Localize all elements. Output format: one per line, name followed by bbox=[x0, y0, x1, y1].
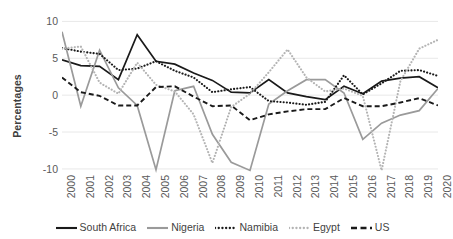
legend-item-namibia[interactable]: Namibia bbox=[215, 221, 278, 233]
y-axis-title: Percentages bbox=[11, 58, 23, 154]
y-axis-tick-label: 0 bbox=[28, 90, 58, 100]
legend-key-swatch bbox=[56, 223, 77, 232]
plot-svg bbox=[62, 14, 438, 180]
legend-item-label: Egypt bbox=[313, 221, 340, 233]
x-axis-tick-label: 2015 bbox=[348, 175, 359, 219]
x-axis-tick-label: 2006 bbox=[179, 175, 190, 219]
series-line-namibia bbox=[62, 48, 438, 105]
x-axis-tick-label: 2013 bbox=[310, 175, 321, 219]
legend-item-egypt[interactable]: Egypt bbox=[289, 221, 340, 233]
x-axis-tick-label: 2002 bbox=[104, 175, 115, 219]
chart-legend: South AfricaNigeriaNamibiaEgyptUS bbox=[0, 219, 445, 235]
x-axis-tick-label: 2019 bbox=[423, 175, 434, 219]
y-axis-tick-label: 5 bbox=[28, 53, 58, 63]
x-axis-tick-label: 2011 bbox=[273, 175, 284, 219]
x-axis-tick-label: 2012 bbox=[292, 175, 303, 219]
x-axis-tick-label: 2003 bbox=[122, 175, 133, 219]
legend-key-swatch bbox=[215, 223, 236, 232]
x-axis-tick-label: 2004 bbox=[141, 175, 152, 219]
plot-area bbox=[62, 14, 438, 180]
x-axis-tick-label: 2008 bbox=[216, 175, 227, 219]
series-line-south-africa bbox=[62, 35, 438, 100]
legend-item-nigeria[interactable]: Nigeria bbox=[147, 221, 204, 233]
x-axis-tick-label: 2016 bbox=[367, 175, 378, 219]
x-axis-tick-label: 2017 bbox=[386, 175, 397, 219]
y-axis-tick-label: -10 bbox=[28, 164, 58, 174]
x-axis-tick-label: 2005 bbox=[160, 175, 171, 219]
series-lines bbox=[62, 32, 438, 171]
y-axis-tick-label: 10 bbox=[28, 16, 58, 26]
x-axis-tick-label: 2018 bbox=[404, 175, 415, 219]
y-axis-tick-labels: 1050-5-10 bbox=[26, 0, 58, 239]
legend-item-label: South Africa bbox=[80, 221, 137, 233]
legend-key-swatch bbox=[351, 223, 372, 232]
x-axis-tick-label: 2010 bbox=[254, 175, 265, 219]
legend-key-swatch bbox=[289, 223, 310, 232]
legend-key-swatch bbox=[147, 223, 168, 232]
x-axis-tick-label: 2007 bbox=[198, 175, 209, 219]
y-axis-tick-label: -5 bbox=[28, 127, 58, 137]
series-line-nigeria bbox=[62, 32, 438, 171]
x-axis-tick-label: 2000 bbox=[66, 175, 77, 219]
x-axis-tick-label: 2001 bbox=[85, 175, 96, 219]
legend-item-south-africa[interactable]: South Africa bbox=[56, 221, 137, 233]
x-axis-tick-label: 2014 bbox=[329, 175, 340, 219]
legend-item-label: Nigeria bbox=[171, 221, 204, 233]
x-axis-tick-labels: 2000200120022003200420052006200720082009… bbox=[62, 178, 438, 222]
x-axis-tick-label: 2009 bbox=[235, 175, 246, 219]
legend-item-label: US bbox=[375, 221, 390, 233]
legend-item-label: Namibia bbox=[239, 221, 278, 233]
x-axis-tick-label: 2020 bbox=[442, 175, 453, 219]
gridlines bbox=[62, 21, 438, 169]
legend-item-us[interactable]: US bbox=[351, 221, 390, 233]
series-line-us bbox=[62, 77, 438, 120]
